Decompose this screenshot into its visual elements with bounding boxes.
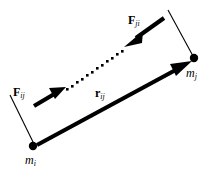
label-mass-i-base: m [25, 153, 34, 167]
extension-line-mass-j [168, 10, 193, 56]
extension-line-mass-i [10, 95, 34, 144]
label-mass-i-subscript: i [34, 159, 36, 168]
label-mass-j-subscript: j [195, 72, 197, 81]
point-mass-j-dot [190, 54, 198, 62]
diagram-canvas [0, 0, 212, 171]
label-separation-subscript: ij [100, 92, 104, 101]
label-force-ij: Fij [13, 83, 25, 100]
label-mass-j: mj [186, 64, 197, 81]
vector-F-ij [34, 87, 66, 106]
point-mass-i-dot [29, 142, 37, 150]
physics-force-diagram: Fji Fij rij mj mi [0, 0, 212, 171]
label-mass-j-base: m [186, 66, 195, 80]
label-separation-r-ij: rij [95, 84, 105, 101]
label-force-ij-subscript: ij [20, 91, 24, 100]
label-mass-i: mi [25, 151, 36, 168]
label-force-ji-subscript: ji [135, 19, 139, 28]
label-force-ji: Fji [128, 11, 140, 28]
vector-r-ij [37, 61, 192, 145]
